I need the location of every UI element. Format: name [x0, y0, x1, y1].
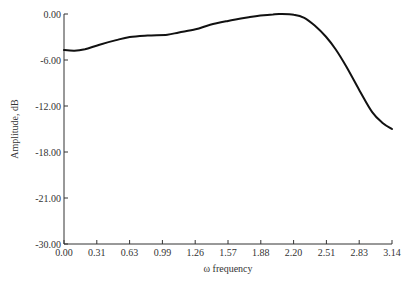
y-axis-title: Amplitude, dB	[9, 99, 20, 159]
amplitude-curve	[64, 14, 392, 129]
y-tick-label: -6.00	[40, 55, 61, 66]
x-ticks: 0.000.310.630.991.261.571.882.202.512.83…	[55, 240, 401, 258]
x-tick-label: 2.51	[318, 247, 336, 258]
amplitude-chart: 0.00-6.00-12.00-18.00-21.00-30.00 0.000.…	[0, 0, 413, 291]
x-tick-label: 0.00	[55, 247, 73, 258]
x-axis-title: ω frequency	[203, 263, 252, 274]
x-tick-label: 0.99	[154, 247, 172, 258]
y-tick-label: 0.00	[44, 9, 62, 20]
x-tick-label: 1.88	[252, 247, 270, 258]
y-tick-label: -12.00	[35, 101, 61, 112]
x-tick-label: 3.14	[383, 247, 401, 258]
x-tick-label: 2.83	[350, 247, 368, 258]
x-tick-label: 1.57	[219, 247, 237, 258]
x-tick-label: 1.26	[186, 247, 204, 258]
x-tick-label: 2.20	[285, 247, 303, 258]
y-tick-label: -21.00	[35, 193, 61, 204]
axes	[64, 14, 392, 244]
y-ticks: 0.00-6.00-12.00-18.00-21.00-30.00	[35, 9, 68, 250]
x-tick-label: 0.63	[121, 247, 139, 258]
y-tick-label: -18.00	[35, 147, 61, 158]
x-tick-label: 0.31	[88, 247, 106, 258]
